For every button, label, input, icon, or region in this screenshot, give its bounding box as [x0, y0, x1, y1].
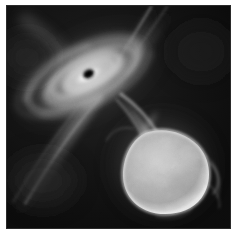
scene-root: Black hole X-ray binary artist impressio… — [0, 0, 236, 238]
film-grain — [7, 6, 230, 228]
illustration-panel: Black hole X-ray binary artist impressio… — [6, 5, 231, 229]
astronomy-illustration — [7, 6, 230, 228]
